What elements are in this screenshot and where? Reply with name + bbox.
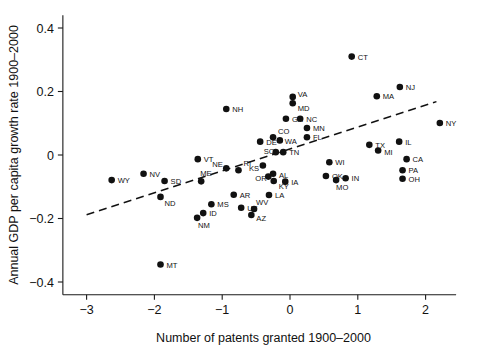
data-point-label: NJ: [406, 83, 415, 92]
data-point-marker: [399, 167, 406, 174]
data-point-marker: [375, 147, 382, 154]
y-tick-label: 0: [47, 149, 54, 163]
data-point-marker: [260, 162, 267, 169]
data-point-marker: [270, 178, 277, 185]
y-tick-label: −0.2: [29, 212, 54, 226]
data-point-marker: [437, 120, 444, 127]
data-point-marker: [280, 149, 287, 156]
data-point-marker: [342, 175, 349, 182]
data-point-marker: [326, 159, 333, 166]
data-point-marker: [194, 156, 201, 163]
data-point-label: ID: [209, 209, 217, 218]
data-point-label: SD: [171, 177, 182, 186]
data-point-marker: [297, 116, 304, 123]
data-point-marker: [140, 170, 147, 177]
data-point-label: CO: [278, 127, 289, 136]
x-tick-label: −3: [79, 303, 93, 317]
data-point-marker: [223, 106, 230, 113]
data-point-label: MA: [383, 92, 395, 101]
x-tick-label: −1: [215, 303, 229, 317]
y-tick-label: 0.2: [36, 85, 53, 99]
data-point-label: SC: [264, 147, 275, 156]
data-point-marker: [108, 177, 115, 184]
data-point-label: MS: [217, 200, 228, 209]
data-point-marker: [157, 194, 164, 201]
data-point-marker: [283, 116, 290, 123]
x-tick-label: 0: [287, 303, 294, 317]
data-point-marker: [277, 137, 284, 144]
data-point-label: NM: [198, 221, 210, 230]
data-point-marker: [208, 201, 215, 208]
data-point-label: WV: [256, 198, 269, 207]
data-point-marker: [289, 100, 296, 107]
data-point-label: NH: [232, 105, 243, 114]
data-point-marker: [248, 212, 255, 219]
data-point-marker: [399, 176, 406, 183]
data-point-marker: [348, 53, 355, 60]
data-point-marker: [304, 125, 311, 132]
data-point-marker: [200, 210, 207, 217]
data-point-marker: [198, 178, 205, 185]
scatter-plot-figure: −0.4−0.200.20.4−3−2−1012 WYNVSDNDMTNMIDM…: [0, 0, 481, 353]
data-point-marker: [397, 84, 404, 91]
data-point-label: NE: [212, 160, 223, 169]
y-tick-label: 0.4: [36, 22, 53, 36]
data-point-label: MN: [313, 124, 325, 133]
data-point-label: IN: [352, 174, 360, 183]
data-point-label: NC: [306, 115, 317, 124]
data-point-label: IL: [405, 138, 411, 147]
data-point-marker: [396, 138, 403, 145]
data-point-marker: [323, 173, 330, 180]
data-point-label: FL: [313, 133, 322, 142]
data-point-label: LA: [275, 191, 285, 200]
data-point-label: ME: [200, 169, 211, 178]
axis-titles-group: Number of patents granted 1900–2000Annua…: [7, 25, 371, 345]
x-tick-label: −2: [147, 303, 161, 317]
data-point-label: IA: [291, 178, 299, 187]
data-points-group: WYNVSDNDMTNMIDMSMEVTNEARUTLAAZWVRINHKSOR…: [108, 53, 456, 270]
data-point-label: NY: [446, 119, 457, 128]
data-point-marker: [373, 93, 380, 100]
data-point-marker: [403, 156, 410, 163]
data-point-label: AR: [240, 191, 251, 200]
data-point-label: CA: [413, 155, 424, 164]
data-point-marker: [161, 178, 168, 185]
data-point-label: OR: [255, 174, 267, 183]
y-axis-title: Annual GDP per capita growth rate 1900–2…: [7, 25, 21, 285]
y-tick-label: −0.4: [29, 276, 54, 290]
x-tick-label: 1: [354, 303, 361, 317]
data-point-label: TN: [289, 148, 299, 157]
data-point-label: KS: [249, 164, 259, 173]
data-point-marker: [289, 94, 296, 101]
data-point-label: ND: [165, 199, 176, 208]
data-point-label: WI: [335, 158, 344, 167]
data-point-label: AZ: [256, 214, 266, 223]
data-point-marker: [270, 134, 277, 141]
data-point-label: MD: [298, 104, 310, 113]
data-point-marker: [257, 138, 264, 145]
data-point-marker: [238, 204, 245, 211]
data-point-marker: [304, 134, 311, 141]
plot-canvas: −0.4−0.200.20.4−3−2−1012 WYNVSDNDMTNMIDM…: [0, 0, 481, 353]
data-point-marker: [366, 142, 373, 149]
data-point-label: AL: [279, 171, 288, 180]
x-tick-label: 2: [422, 303, 429, 317]
data-point-label: MI: [384, 148, 392, 157]
x-axis-title: Number of patents granted 1900–2000: [156, 331, 371, 345]
data-point-label: WY: [118, 176, 130, 185]
data-point-marker: [157, 261, 164, 268]
data-point-label: CT: [358, 53, 368, 62]
data-point-marker: [235, 167, 242, 174]
data-point-label: MT: [167, 261, 178, 270]
data-point-label: WA: [285, 137, 298, 146]
data-point-label: OH: [409, 175, 420, 184]
data-point-marker: [223, 165, 230, 172]
data-point-label: VA: [298, 90, 309, 99]
data-point-marker: [282, 178, 289, 185]
data-point-label: MO: [336, 183, 348, 192]
data-point-marker: [270, 170, 277, 177]
data-point-marker: [230, 191, 237, 198]
data-point-label: NV: [150, 170, 161, 179]
